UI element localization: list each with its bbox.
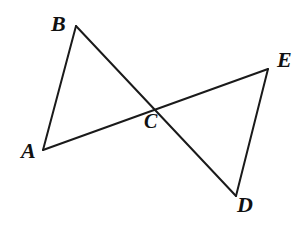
segment-de [236, 69, 268, 196]
segment-ab [43, 26, 76, 150]
vertex-label-b: B [51, 13, 66, 35]
geometry-figure: A B C D E [0, 0, 303, 225]
vertex-label-a: A [21, 140, 36, 162]
vertex-label-d: D [237, 194, 253, 216]
vertex-label-e: E [277, 49, 292, 71]
vertex-label-c: C [144, 111, 157, 131]
